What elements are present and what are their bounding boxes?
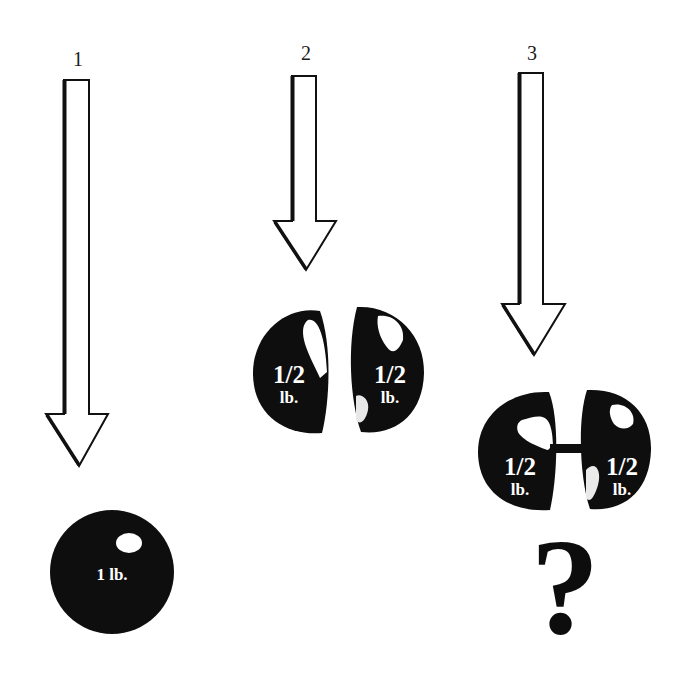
- fraction-text: 1/2: [273, 362, 305, 387]
- down-arrow-icon: [274, 76, 336, 270]
- question-mark-icon: ?: [531, 518, 600, 656]
- unit-text: lb.: [273, 389, 305, 406]
- weight-label-half: 1/2 lb.: [606, 454, 638, 498]
- weight-label-whole: 1 lb.: [96, 566, 127, 583]
- fraction-text: 1/2: [374, 362, 406, 387]
- down-arrow-icon: [46, 80, 108, 466]
- down-arrow-icon: [502, 73, 565, 355]
- fraction-text: 1/2: [504, 454, 536, 479]
- weight-label-half: 1/2 lb.: [504, 454, 536, 498]
- connecting-rod: [550, 444, 586, 453]
- weight-label-half: 1/2 lb.: [374, 362, 406, 406]
- unit-text: lb.: [504, 481, 536, 498]
- fraction-text: 1/2: [606, 454, 638, 479]
- unit-text: lb.: [374, 389, 406, 406]
- unit-text: lb.: [606, 481, 638, 498]
- weight-label-half: 1/2 lb.: [273, 362, 305, 406]
